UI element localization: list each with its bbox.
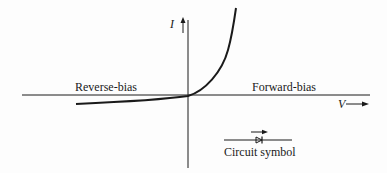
i-axis-label: I [170, 17, 174, 32]
forward-bias-label: Forward-bias [252, 80, 316, 95]
i-arrow-icon [181, 17, 186, 33]
diode-icon [224, 137, 292, 144]
diode-iv-diagram: I V Reverse-bias Forward-bias Circuit sy… [0, 0, 387, 173]
reverse-bias-label: Reverse-bias [75, 80, 137, 95]
v-axis-label: V [338, 97, 345, 112]
diagram-canvas [0, 0, 387, 173]
v-arrow-icon [346, 102, 369, 107]
circuit-symbol-caption: Circuit symbol [224, 145, 296, 160]
current-direction-arrow-icon [251, 130, 268, 134]
